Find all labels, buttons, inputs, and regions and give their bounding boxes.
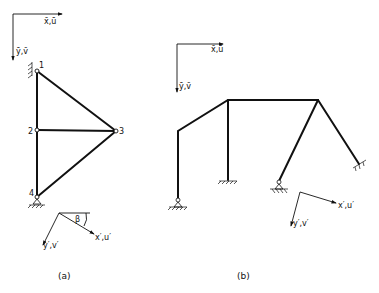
node-3 (114, 129, 118, 133)
support-fixed-middle (218, 181, 237, 184)
support-fixed-inclined (353, 160, 366, 171)
global-y-label: ȳ,v̄ (16, 47, 28, 56)
node-label-1: 1 (39, 61, 44, 70)
node-label-3: 3 (119, 127, 124, 136)
node-label-2: 2 (28, 127, 33, 136)
support-node-1 (28, 62, 32, 78)
caption-b: (b) (237, 271, 250, 281)
global-x-label: x̄,ū (44, 17, 56, 26)
truss-members (37, 71, 116, 197)
structural-diagram: x̄,ū ȳ,v̄ 1 2 3 4 (0, 0, 379, 293)
global-axes-a: x̄,ū ȳ,v̄ (13, 14, 62, 60)
figure-b: x̄,ū ȳ,v̄ (168, 44, 366, 281)
caption-a: (a) (58, 271, 71, 281)
figure-a: x̄,ū ȳ,v̄ 1 2 3 4 (13, 14, 124, 281)
support-pinned-left (168, 198, 187, 210)
local-x-label: x′,u′ (338, 201, 354, 210)
local-y-label: y′,v′ (293, 219, 309, 228)
global-x-label: x̄,ū (211, 45, 223, 54)
local-y-label: y′,v′ (43, 241, 59, 250)
local-axes-a: β x′,u′ y′,v′ (43, 213, 111, 250)
local-x-label: x′,u′ (95, 233, 111, 242)
support-node-4 (28, 199, 45, 208)
frame-members (178, 100, 359, 200)
angle-label: β (75, 215, 80, 224)
global-y-label: ȳ,v̄ (179, 82, 191, 91)
node-label-4: 4 (29, 189, 34, 198)
support-pinned-right (270, 180, 288, 193)
local-axes-b: x′,u′ y′,v′ (291, 192, 354, 228)
global-axes-b: x̄,ū ȳ,v̄ (177, 44, 223, 92)
node-2 (35, 128, 39, 132)
